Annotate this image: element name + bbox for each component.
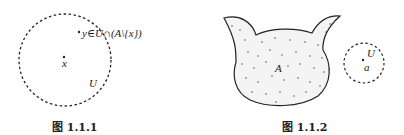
figure-1-1-2: A U a: [224, 16, 384, 106]
point-y-dot: [78, 31, 80, 33]
caption-figure-1-1-2: 图 1.1.2: [282, 118, 327, 134]
figure-canvas: x y∈U̇∩(A\{x}) U A U a: [0, 0, 404, 135]
label-U: U: [89, 77, 98, 89]
label-y-expression: y∈U̇∩(A\{x}): [81, 27, 142, 40]
label-A: A: [274, 62, 282, 74]
label-U-right: U: [367, 47, 376, 59]
label-a: a: [364, 61, 370, 73]
label-x: x: [61, 57, 67, 69]
set-A-shape: [224, 16, 340, 106]
figure-1-1-1: x y∈U̇∩(A\{x}) U: [19, 14, 142, 106]
caption-figure-1-1-1: 图 1.1.1: [52, 118, 97, 134]
